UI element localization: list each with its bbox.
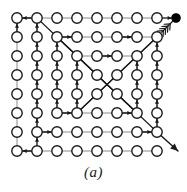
arrowhead-icon [47, 130, 51, 134]
arrowhead-icon [155, 81, 159, 85]
grid-node[interactable] [32, 127, 42, 137]
grid-node[interactable] [132, 89, 142, 99]
figure-root: (a) [0, 0, 187, 192]
grid-node[interactable] [72, 32, 82, 42]
arrowhead-icon [135, 100, 139, 104]
arrowhead-icon [55, 100, 59, 104]
goal-node[interactable] [172, 14, 180, 22]
arrowhead-icon [155, 62, 159, 66]
arrowhead-icon [55, 43, 59, 47]
grid-node[interactable] [152, 32, 162, 42]
grid-node[interactable] [32, 89, 42, 99]
grid-node[interactable] [152, 108, 162, 118]
grid-node[interactable] [132, 51, 142, 61]
arrowhead-icon [107, 54, 111, 58]
grid-node[interactable] [52, 108, 62, 118]
grid-node[interactable] [12, 127, 22, 137]
grid-node[interactable] [52, 146, 62, 156]
grid-node[interactable] [152, 127, 162, 137]
arrowhead-icon [155, 119, 159, 123]
grid-node[interactable] [12, 13, 22, 23]
arrowhead-icon [35, 43, 39, 47]
arrowhead-icon [35, 62, 39, 66]
grid-node[interactable] [92, 108, 102, 118]
grid-node[interactable] [12, 70, 22, 80]
grid-node[interactable] [152, 13, 162, 23]
grid-node[interactable] [52, 127, 62, 137]
grid-node[interactable] [72, 89, 82, 99]
arrowhead-icon [35, 138, 39, 142]
arrowhead-icon [67, 111, 71, 115]
grid-node[interactable] [92, 51, 102, 61]
arrowhead-icon [75, 81, 79, 85]
grid-node[interactable] [32, 13, 42, 23]
arrowhead-icon [55, 81, 59, 85]
grid-node[interactable] [92, 32, 102, 42]
arrowhead-icon [23, 16, 27, 20]
grid-node[interactable] [32, 70, 42, 80]
grid-node[interactable] [152, 51, 162, 61]
grid-node[interactable] [92, 70, 102, 80]
arrowhead-icon [35, 81, 39, 85]
arrowhead-icon [127, 35, 131, 39]
grid-node[interactable] [12, 108, 22, 118]
grid-node[interactable] [152, 89, 162, 99]
grid-node[interactable] [52, 51, 62, 61]
grid-node[interactable] [132, 70, 142, 80]
grid-node[interactable] [132, 13, 142, 23]
arrowhead-icon [67, 35, 71, 39]
arrowhead-icon [75, 100, 79, 104]
grid-node[interactable] [112, 70, 122, 80]
grid-node[interactable] [12, 32, 22, 42]
grid-node[interactable] [52, 13, 62, 23]
grid-node[interactable] [112, 146, 122, 156]
grid-node[interactable] [72, 127, 82, 137]
grid-node[interactable] [92, 89, 102, 99]
grid-node[interactable] [92, 127, 102, 137]
grid-node[interactable] [112, 13, 122, 23]
arrowhead-icon [127, 111, 131, 115]
grid-node[interactable] [72, 70, 82, 80]
arrowhead-icon [35, 24, 39, 28]
grid-node[interactable] [72, 146, 82, 156]
grid-node[interactable] [12, 146, 22, 156]
grid-node[interactable] [72, 108, 82, 118]
grid-node[interactable] [132, 32, 142, 42]
grid-node[interactable] [92, 13, 102, 23]
arrowhead-icon [15, 24, 19, 28]
grid-node[interactable] [32, 32, 42, 42]
arrowhead-icon [75, 62, 79, 66]
grid-node[interactable] [132, 108, 142, 118]
figure-caption: (a) [0, 164, 187, 181]
grid-node[interactable] [52, 89, 62, 99]
arrowhead-icon [135, 62, 139, 66]
grid-node[interactable] [52, 70, 62, 80]
grid-node[interactable] [112, 51, 122, 61]
grid-node[interactable] [72, 13, 82, 23]
goal-arrowhead-icon [168, 16, 172, 20]
arrowhead-icon [155, 100, 159, 104]
grid-node[interactable] [32, 51, 42, 61]
grid-node[interactable] [152, 70, 162, 80]
arrowhead-icon [135, 81, 139, 85]
grid-node[interactable] [132, 127, 142, 137]
grid-node[interactable] [72, 51, 82, 61]
arrowhead-icon [35, 119, 39, 123]
grid-node[interactable] [112, 127, 122, 137]
grid-node[interactable] [52, 32, 62, 42]
grid-node[interactable] [12, 51, 22, 61]
arrowhead-icon [155, 43, 159, 47]
grid-node[interactable] [92, 146, 102, 156]
grid-node[interactable] [112, 89, 122, 99]
grid-node[interactable] [112, 108, 122, 118]
grid-node[interactable] [152, 146, 162, 156]
arrowhead-icon [23, 149, 27, 153]
arrowhead-icon [35, 100, 39, 104]
grid-node[interactable] [132, 146, 142, 156]
grid-node[interactable] [32, 108, 42, 118]
grid-node[interactable] [12, 89, 22, 99]
arrowhead-icon [55, 62, 59, 66]
grid-node[interactable] [112, 32, 122, 42]
grid-node[interactable] [32, 146, 42, 156]
arrowhead-icon [147, 130, 151, 134]
